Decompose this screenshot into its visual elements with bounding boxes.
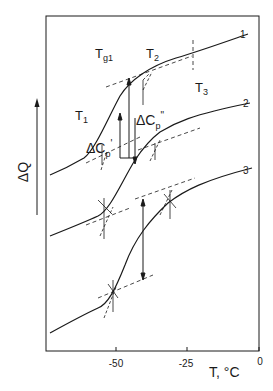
y-axis-label: ΔQ	[15, 162, 31, 182]
svg-text:T2: T2	[146, 46, 159, 63]
svg-text:T1: T1	[75, 108, 88, 125]
annotation-t1: T1	[75, 108, 88, 125]
curve-3	[50, 168, 252, 333]
annotation-tg1: Tg1	[95, 46, 113, 63]
x-tick-label-0: 0	[257, 356, 263, 367]
svg-text:ΔCp': ΔCp'	[86, 138, 112, 159]
svg-text:T3: T3	[195, 80, 208, 97]
x-tick-label-m50: -50	[109, 358, 124, 369]
annotation-dcp-prime: ΔCp'	[86, 138, 112, 159]
svg-text:ΔCp": ΔCp"	[136, 110, 164, 131]
dcp-arrows	[118, 78, 137, 164]
annotation-dcp-double-prime: ΔCp"	[136, 110, 164, 131]
x-tick-label-m25: -25	[179, 358, 194, 369]
curve-3-label: 3	[243, 165, 249, 176]
svg-text:Tg1: Tg1	[95, 46, 113, 63]
annotation-t2: T2	[146, 46, 159, 63]
dsc-chart: -50 -25 0 T, °C ΔQ	[0, 0, 273, 391]
curve-1-label: 1	[240, 29, 246, 40]
x-axis-ticks	[116, 347, 259, 351]
x-axis-label: T, °C	[209, 364, 240, 380]
y-axis-arrow	[35, 98, 40, 215]
annotation-t3: T3	[195, 80, 208, 97]
curve-2-label: 2	[243, 98, 249, 109]
plot-frame	[46, 16, 259, 351]
